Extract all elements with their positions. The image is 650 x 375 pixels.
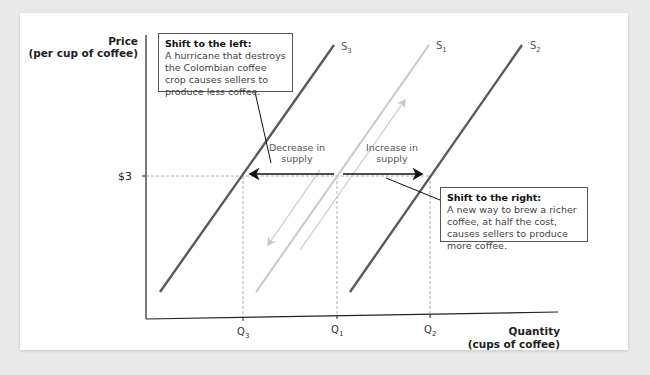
shift-left-body: A hurricane that destroys the Colombian … bbox=[165, 50, 286, 97]
q1-tick-label: Q1 bbox=[331, 324, 343, 338]
increase-in-supply-label: Increase insupply bbox=[357, 142, 427, 164]
y-axis-subtitle: (per cup of coffee) bbox=[20, 47, 138, 60]
x-axis-subtitle: (cups of coffee) bbox=[440, 338, 560, 351]
shift-right-callout: Shift to the right: A new way to brew a … bbox=[440, 187, 588, 242]
s1-shift-arrow-up bbox=[300, 100, 405, 250]
s3-label: S3 bbox=[341, 41, 352, 55]
shift-left-heading: Shift to the left: bbox=[165, 38, 286, 50]
s1-label: S1 bbox=[436, 40, 447, 54]
x-axis bbox=[146, 312, 558, 319]
price-tick-label: $3 bbox=[118, 170, 132, 183]
shift-right-heading: Shift to the right: bbox=[447, 192, 581, 204]
shift-right-body: A new way to brew a richer coffee, at ha… bbox=[447, 204, 577, 251]
shift-left-callout: Shift to the left: A hurricane that dest… bbox=[158, 33, 293, 92]
q3-tick-label: Q3 bbox=[237, 326, 249, 340]
s1-shift-arrow-down bbox=[268, 170, 320, 245]
s2-label: S2 bbox=[530, 40, 541, 54]
supply-curve-s2 bbox=[350, 45, 522, 292]
decrease-in-supply-label: Decrease insupply bbox=[262, 142, 332, 164]
x-axis-title: Quantity bbox=[470, 325, 560, 338]
right-callout-pointer bbox=[386, 178, 440, 200]
q2-tick-label: Q2 bbox=[424, 324, 436, 338]
